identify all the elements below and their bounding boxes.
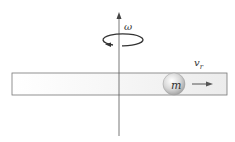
velocity-subscript: r bbox=[200, 63, 203, 71]
omega-label: ω bbox=[124, 21, 132, 32]
rotation-arrow-icon bbox=[103, 34, 143, 47]
radial-velocity-label: vr bbox=[194, 57, 203, 71]
rotating-rod-diagram bbox=[0, 0, 235, 142]
mass-label: m bbox=[171, 79, 181, 92]
axis-arrow-icon bbox=[117, 12, 122, 19]
